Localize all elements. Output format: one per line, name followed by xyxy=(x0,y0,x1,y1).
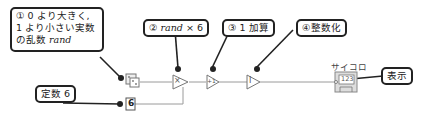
increment-symbol: +1 xyxy=(207,77,216,84)
callout-random: ① 0 より大きく, 1 より小さい実数 の乱数 rand xyxy=(10,7,104,52)
callout-multiply: ② rand × 6 xyxy=(143,19,209,37)
dice-icon xyxy=(126,74,139,87)
indicator-label: サイコロ xyxy=(331,60,367,72)
callout-display: 表示 xyxy=(381,67,413,85)
constant-value: 6 xyxy=(128,98,134,108)
callout-constant: 定数 6 xyxy=(35,85,76,103)
multiply-symbol: × xyxy=(174,76,181,85)
callout-to-integer: ④整数化 xyxy=(296,19,347,37)
callout-add-one: ③ 1 加算 xyxy=(222,19,275,37)
integer-symbol: I xyxy=(249,76,251,85)
indicator-value: 123 xyxy=(341,75,353,83)
